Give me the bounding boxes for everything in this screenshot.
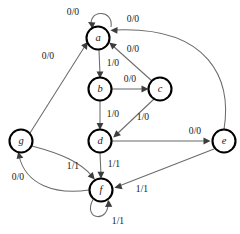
edge-label-f-f: 1/1: [112, 215, 124, 226]
edge-a-b: [97, 50, 104, 79]
node-d[interactable]: d: [89, 130, 112, 153]
node-e-label: e: [222, 135, 227, 146]
node-a[interactable]: a: [87, 27, 110, 50]
edge-label-e-f: 1/1: [136, 183, 148, 194]
edge-label-e-a: 0/0: [127, 13, 139, 24]
edge-b-d: [97, 101, 104, 130]
node-g-label: g: [18, 135, 23, 146]
node-g[interactable]: g: [10, 130, 33, 153]
edge-label-g-a: 0/0: [42, 50, 54, 61]
edge-label-g-f: 1/1: [67, 160, 79, 171]
fsm-diagram: a b c d e f g: [0, 0, 240, 234]
edge-label-c-d: 1/0: [137, 111, 149, 122]
edge-label-c-a: 0/0: [127, 43, 139, 54]
node-b[interactable]: b: [89, 78, 112, 101]
node-e[interactable]: e: [213, 130, 236, 153]
node-c[interactable]: c: [149, 78, 172, 101]
edge-f-g: [17, 152, 89, 191]
node-d-label: d: [97, 135, 103, 146]
edge-layer: [17, 14, 226, 217]
edge-label-d-f: 1/1: [108, 158, 120, 169]
edge-d-e: [112, 138, 211, 145]
arrowhead: [110, 27, 117, 34]
edge-e-f: [114, 149, 214, 189]
edge-label-b-c: 0/0: [124, 73, 136, 84]
node-a-label: a: [95, 32, 100, 43]
fsm-canvas: a b c d e f g: [0, 0, 240, 234]
edge-g-f: [32, 146, 95, 180]
node-f[interactable]: f: [90, 179, 113, 202]
edge-label-f-g: 0/0: [12, 171, 24, 182]
edge-label-a-a: 0/0: [67, 6, 79, 17]
node-c-label: c: [158, 83, 163, 94]
edge-label-a-b: 1/0: [107, 57, 119, 68]
arrowhead: [142, 86, 149, 93]
edge-label-d-e: 0/0: [189, 125, 201, 136]
edge-g-a: [30, 42, 88, 133]
arrowhead: [114, 183, 122, 189]
node-b-label: b: [97, 83, 102, 94]
edge-label-b-d: 1/0: [107, 108, 119, 119]
edge-b-c: [112, 86, 149, 93]
edge-d-f: [98, 153, 105, 179]
arrowhead: [204, 138, 211, 145]
